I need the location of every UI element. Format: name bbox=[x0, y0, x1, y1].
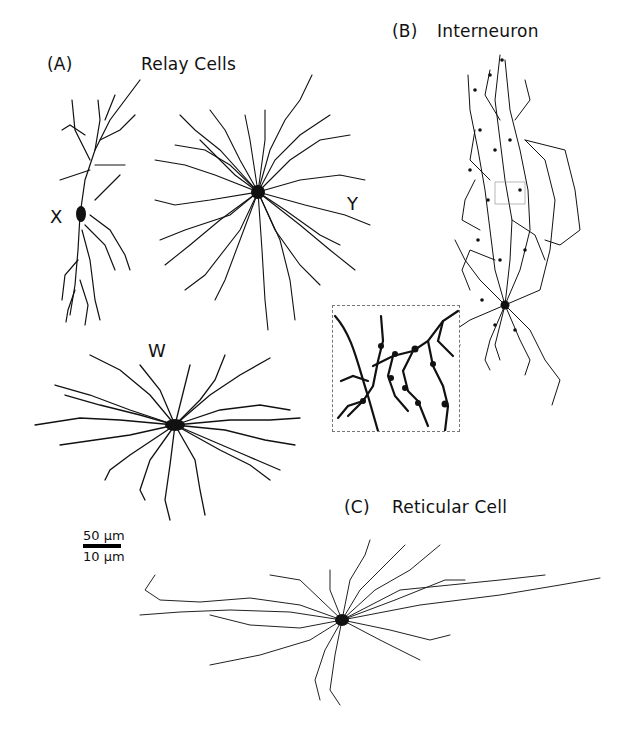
scale-bar-top-label: 50 µm bbox=[83, 528, 125, 543]
scale-bar-line bbox=[83, 544, 121, 548]
scale-bar-bottom-label: 10 µm bbox=[83, 549, 125, 564]
scale-bar: 50 µm 10 µm bbox=[83, 528, 125, 564]
reticular-cell-drawing bbox=[0, 0, 623, 734]
